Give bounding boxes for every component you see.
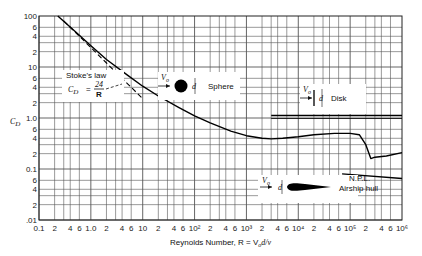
- drag-coefficient-chart: 0.12461.02461024610²24610³24610⁴24610⁵24…: [0, 0, 422, 256]
- svg-text:4: 4: [33, 134, 38, 143]
- svg-text:10³: 10³: [241, 224, 253, 233]
- svg-text:6: 6: [33, 176, 38, 185]
- stokes-title: Stoke's law: [66, 71, 106, 80]
- stokes-den: R: [96, 90, 102, 99]
- svg-text:2: 2: [33, 48, 38, 57]
- svg-text:10: 10: [28, 63, 37, 72]
- stokes-num: 24: [95, 80, 103, 89]
- svg-text:4: 4: [33, 185, 38, 194]
- svg-text:1.0: 1.0: [26, 114, 38, 123]
- svg-text:10⁵: 10⁵: [344, 224, 356, 233]
- svg-text:4: 4: [33, 32, 38, 41]
- svg-text:2: 2: [364, 224, 369, 233]
- svg-text:10²: 10²: [189, 224, 201, 233]
- svg-text:2: 2: [260, 224, 265, 233]
- svg-text:2: 2: [33, 150, 38, 159]
- disk-annotation: Vo d Disk: [300, 84, 366, 114]
- sphere-annotation: Vo d Sphere: [158, 72, 240, 100]
- svg-text:4: 4: [275, 224, 280, 233]
- svg-text:10⁶: 10⁶: [396, 224, 408, 233]
- stokes-law-annotation: Stoke's law CD = 24 R: [62, 70, 124, 102]
- svg-text:4: 4: [379, 224, 384, 233]
- svg-text:4: 4: [172, 224, 177, 233]
- x-axis-label: Reynolds Number, R = Vod/ν: [170, 238, 271, 248]
- svg-text:2: 2: [312, 224, 317, 233]
- airship-annotation: Vo d N.P.L. Airship hull: [258, 174, 378, 203]
- svg-text:2: 2: [52, 224, 57, 233]
- svg-text:6: 6: [33, 74, 38, 83]
- svg-text:2: 2: [208, 224, 213, 233]
- svg-text:.01: .01: [26, 216, 38, 225]
- svg-text:100: 100: [24, 12, 38, 21]
- svg-text:0.1: 0.1: [33, 224, 45, 233]
- svg-text:6: 6: [33, 23, 38, 32]
- svg-text:10: 10: [138, 224, 147, 233]
- svg-text:4: 4: [33, 83, 38, 92]
- svg-text:4: 4: [68, 224, 73, 233]
- svg-text:4: 4: [120, 224, 125, 233]
- y-axis-label: CD: [10, 117, 20, 128]
- svg-text:4: 4: [224, 224, 229, 233]
- svg-text:6: 6: [33, 125, 38, 134]
- sphere-label: Sphere: [208, 82, 234, 91]
- svg-text:4: 4: [327, 224, 332, 233]
- airship-label-2: Airship hull: [339, 184, 378, 193]
- svg-text:2: 2: [156, 224, 161, 233]
- svg-text:6: 6: [77, 224, 82, 233]
- svg-text:1.0: 1.0: [85, 224, 97, 233]
- svg-text:6: 6: [233, 224, 238, 233]
- svg-text:6: 6: [181, 224, 186, 233]
- svg-text:6: 6: [129, 224, 134, 233]
- airship-label-1: N.P.L.: [349, 174, 370, 183]
- svg-text:10⁴: 10⁴: [292, 224, 305, 233]
- stokes-eq: =: [86, 85, 91, 94]
- svg-text:0.1: 0.1: [26, 165, 38, 174]
- svg-text:6: 6: [388, 224, 393, 233]
- svg-text:2: 2: [104, 224, 109, 233]
- sphere-icon: [175, 80, 188, 93]
- svg-text:2: 2: [33, 201, 38, 210]
- disk-label: Disk: [331, 94, 348, 103]
- svg-text:6: 6: [285, 224, 290, 233]
- svg-text:2: 2: [33, 99, 38, 108]
- svg-text:6: 6: [336, 224, 341, 233]
